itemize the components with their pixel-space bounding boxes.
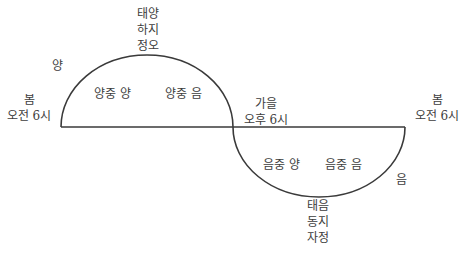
top-apex-line-1: 태양: [137, 6, 159, 22]
right-season: 봄: [432, 92, 443, 108]
yin-yang-curve: [0, 0, 467, 259]
bottom-apex-line-3: 자정: [307, 230, 329, 246]
upper-yang-arc: [61, 55, 233, 127]
top-apex-label: 태양 하지 정오: [128, 6, 168, 54]
bottom-apex-label: 태음 동지 자정: [298, 198, 338, 246]
bottom-apex-line-2: 동지: [307, 214, 329, 230]
left-season: 봄: [24, 92, 35, 108]
middle-time: 오후 6시: [244, 112, 288, 128]
lower-inner-yin-yang: 음중 양: [263, 157, 300, 173]
top-apex-line-2: 하지: [137, 22, 159, 38]
left-time: 오전 6시: [7, 108, 51, 124]
top-apex-line-3: 정오: [137, 38, 159, 54]
middle-cross-label: 가을 오후 6시: [236, 96, 296, 128]
lower-inner-yin-yin: 음중 음: [325, 157, 362, 173]
yin-label: 음: [396, 172, 407, 188]
yang-label: 양: [52, 58, 63, 74]
upper-inner-yang-yang: 양중 양: [94, 86, 131, 102]
lower-yin-arc: [233, 127, 405, 197]
bottom-apex-line-1: 태음: [307, 198, 329, 214]
right-end-label: 봄 오전 6시: [410, 92, 464, 124]
middle-season: 가을: [255, 96, 277, 112]
right-time: 오전 6시: [415, 108, 459, 124]
left-start-label: 봄 오전 6시: [2, 92, 56, 124]
upper-inner-yang-yin: 양중 음: [165, 86, 202, 102]
